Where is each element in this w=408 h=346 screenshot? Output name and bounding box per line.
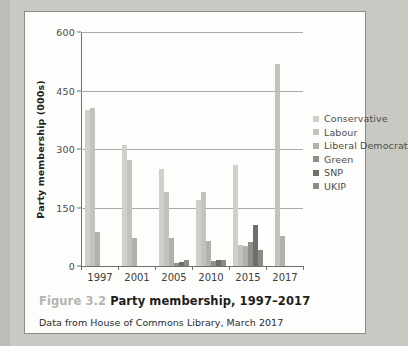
- y-tick-mark: [77, 149, 81, 150]
- legend-item: Conservative: [313, 112, 408, 126]
- legend-swatch-icon: [313, 116, 319, 122]
- page-left-edge: [0, 0, 10, 346]
- y-tick-mark: [77, 207, 81, 208]
- y-tick-mark: [77, 32, 81, 33]
- figure-caption: Figure 3.2 Party membership, 1997–2017 D…: [39, 294, 359, 328]
- legend-swatch-icon: [313, 170, 319, 176]
- y-tick-label: 450: [56, 85, 75, 96]
- legend-item-label: UKIP: [324, 181, 346, 192]
- y-tick-label: 300: [56, 144, 75, 155]
- y-tick-label: 0: [69, 261, 75, 272]
- legend-swatch-icon: [313, 143, 319, 149]
- legend-item-label: Green: [324, 154, 353, 165]
- x-tick-label: 2010: [198, 272, 223, 283]
- x-tick-mark: [155, 266, 156, 270]
- bar-chart: Party membership (000s) 0150300450600 19…: [25, 12, 367, 290]
- bar: [169, 238, 174, 266]
- figure-panel: Party membership (000s) 0150300450600 19…: [24, 11, 366, 334]
- legend-item-label: Conservative: [324, 113, 388, 124]
- bar-group: [233, 32, 263, 266]
- legend-item: Labour: [313, 126, 408, 140]
- x-tick-mark: [303, 266, 304, 270]
- y-tick-label: 150: [56, 202, 75, 213]
- bar: [132, 238, 137, 266]
- x-tick-mark: [81, 266, 82, 270]
- bar: [184, 260, 189, 266]
- x-tick-mark: [266, 266, 267, 270]
- x-tick-label: 2001: [124, 272, 149, 283]
- legend-swatch-icon: [313, 183, 319, 189]
- bar-group: [122, 32, 152, 266]
- y-tick-label: 600: [56, 27, 75, 38]
- legend-item-label: SNP: [324, 167, 343, 178]
- legend-item: SNP: [313, 166, 408, 180]
- x-tick-mark: [118, 266, 119, 270]
- bar: [95, 232, 100, 266]
- legend-swatch-icon: [313, 156, 319, 162]
- plot-area: 0150300450600 199720012005201020152017: [81, 32, 303, 266]
- x-tick-label: 2005: [161, 272, 186, 283]
- x-tick-label: 2015: [235, 272, 260, 283]
- legend-item-label: Liberal Democrat: [324, 140, 408, 151]
- y-axis-title: Party membership (000s): [33, 32, 47, 266]
- figure-title: Party membership, 1997–2017: [110, 294, 310, 308]
- bar: [258, 250, 263, 266]
- bar-group: [85, 32, 115, 266]
- bar: [280, 236, 285, 266]
- figure-number: Figure 3.2: [39, 294, 106, 308]
- bar-group: [270, 32, 300, 266]
- legend-item: UKIP: [313, 180, 408, 194]
- x-tick-mark: [192, 266, 193, 270]
- legend-item: Green: [313, 153, 408, 167]
- legend-item-label: Labour: [324, 127, 357, 138]
- bar-group: [196, 32, 226, 266]
- figure-source-note: Data from House of Commons Library, Marc…: [39, 317, 359, 328]
- x-tick-label: 1997: [87, 272, 112, 283]
- x-tick-mark: [229, 266, 230, 270]
- caption-title-line: Figure 3.2 Party membership, 1997–2017: [39, 294, 359, 308]
- bar-group: [159, 32, 189, 266]
- bar: [221, 260, 226, 266]
- y-axis-title-text: Party membership (000s): [35, 80, 46, 218]
- legend-item: Liberal Democrat: [313, 139, 408, 153]
- legend-swatch-icon: [313, 129, 319, 135]
- chart-legend: ConservativeLabourLiberal DemocratGreenS…: [313, 112, 408, 193]
- x-tick-label: 2017: [272, 272, 297, 283]
- y-tick-mark: [77, 90, 81, 91]
